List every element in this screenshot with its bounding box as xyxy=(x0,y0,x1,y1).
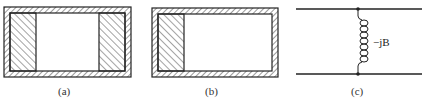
caption-b: (b) xyxy=(205,85,218,97)
dielectric-slab-left xyxy=(10,13,36,71)
inductor-coil-icon xyxy=(358,9,368,74)
figure-c-equivalent-circuit xyxy=(296,7,422,76)
caption-a: (a) xyxy=(58,85,70,97)
susceptance-label: −jB xyxy=(373,36,390,48)
figure-b-waveguide xyxy=(152,8,278,77)
figure-a-waveguide xyxy=(4,7,131,77)
dielectric-slab-left xyxy=(158,14,184,71)
dielectric-slab-right xyxy=(99,13,125,71)
caption-c: (c) xyxy=(351,85,363,97)
